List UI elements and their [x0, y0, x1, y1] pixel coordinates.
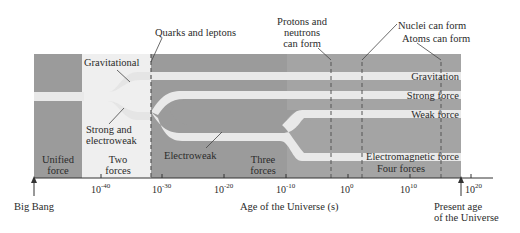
- era-three-forces: Three forces: [238, 154, 288, 176]
- tick-1e-20: 10-20: [214, 183, 233, 195]
- label-strong-electroweak: Strong and electroweak: [86, 124, 137, 146]
- tick-1e20: 1020: [465, 183, 482, 195]
- tick-1e-10: 10-10: [276, 183, 295, 195]
- label-quarks-leptons: Quarks and leptons: [155, 27, 236, 38]
- label-electroweak: Electroweak: [164, 150, 216, 161]
- label-protons-neutrons: Protons and neutrons can form: [266, 16, 338, 49]
- tick-1e10: 1010: [400, 183, 417, 195]
- tick-1e-40: 10-40: [91, 183, 110, 195]
- weak-em-interior: [296, 118, 461, 153]
- forces-timeline-diagram: Quarks and leptons Protons and neutrons …: [0, 0, 520, 233]
- label-nuclei: Nuclei can form: [398, 20, 466, 31]
- era-four-forces: Four forces: [366, 163, 436, 174]
- label-present-age: Present age of the Universe: [434, 201, 499, 223]
- label-gravitational: Gravitational: [84, 57, 139, 68]
- label-strong-force: Strong force: [380, 90, 459, 101]
- era-unified-force: Unified force: [34, 154, 82, 176]
- tick-1e-30: 10-30: [152, 183, 171, 195]
- era-two-forces: Two forces: [90, 154, 146, 176]
- tick-1e0: 100: [340, 183, 354, 195]
- label-gravitation: Gravitation: [380, 71, 459, 82]
- label-weak-force: Weak force: [380, 109, 459, 120]
- unified-band: [34, 92, 84, 101]
- label-atoms: Atoms can form: [402, 33, 470, 44]
- label-electromagnetic-force: Electromagnetic force: [340, 151, 459, 162]
- axis-title: Age of the Universe (s): [240, 201, 339, 212]
- label-big-bang: Big Bang: [14, 201, 54, 212]
